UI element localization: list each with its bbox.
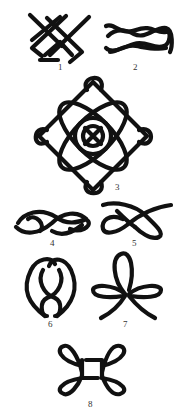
knot-6: 6 [15, 250, 85, 330]
knot-6-label: 6 [48, 320, 53, 329]
knot-3-label: 3 [115, 183, 120, 192]
knot-8: 8 [50, 330, 135, 413]
knot-2-icon [100, 0, 182, 75]
knot-figure-sheet: 1 2 3 [0, 0, 182, 413]
knot-4-icon [0, 195, 95, 250]
knot-1: 1 [0, 0, 100, 75]
knot-8-label: 8 [88, 400, 93, 409]
knot-5: 5 [95, 195, 182, 250]
knot-2: 2 [100, 0, 182, 75]
knot-5-icon [95, 195, 182, 250]
knot-6-icon [15, 250, 85, 330]
knot-4: 4 [0, 195, 95, 250]
knot-3-icon [25, 66, 165, 196]
knot-4-label: 4 [50, 239, 55, 248]
knot-7-label: 7 [123, 320, 128, 329]
knot-7-icon [85, 250, 182, 330]
knot-5-label: 5 [132, 239, 137, 248]
knot-3: 3 [25, 66, 165, 196]
knot-1-icon [0, 0, 100, 75]
knot-7: 7 [85, 250, 182, 330]
